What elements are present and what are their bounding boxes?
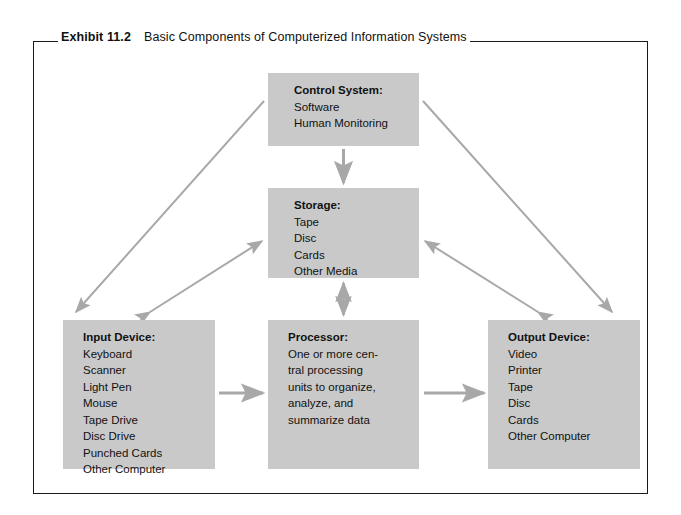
node-storage-item: Cards [294, 247, 411, 264]
node-storage-item: Disc [294, 230, 411, 247]
node-input-device-title: Input Device: [83, 329, 207, 346]
node-input-device-item: Disc Drive [83, 428, 207, 445]
node-output-device: Output Device: Video Printer Tape Disc C… [488, 320, 640, 469]
node-output-device-item: Other Computer [508, 428, 632, 445]
exhibit-number: Exhibit 11.2 [61, 30, 131, 44]
frame-left-border [33, 41, 34, 494]
exhibit-title: Exhibit 11.2 Basic Components of Compute… [61, 26, 467, 48]
arrow-storage-output [425, 241, 538, 312]
node-processor-item: One or more cen- [288, 346, 411, 363]
node-control-system-item: Software [294, 99, 411, 116]
node-processor: Processor: One or more cen- tral process… [268, 320, 419, 469]
node-storage: Storage: Tape Disc Cards Other Media [268, 188, 419, 278]
frame-top-left-border [33, 41, 58, 42]
exhibit-caption: Basic Components of Computerized Informa… [144, 30, 467, 44]
node-processor-item: summarize data [288, 412, 411, 429]
node-input-device-item: Punched Cards [83, 445, 207, 462]
node-input-device-item: Mouse [83, 395, 207, 412]
exhibit-diagram: Exhibit 11.2 Basic Components of Compute… [0, 0, 681, 515]
node-storage-item: Other Media [294, 263, 411, 280]
arrow-storage-input [150, 241, 262, 312]
frame-top-right-border [470, 41, 648, 42]
node-processor-title: Processor: [288, 329, 411, 346]
node-processor-item: units to organize, [288, 379, 411, 396]
node-input-device-item: Other Computer [83, 461, 207, 478]
node-output-device-item: Cards [508, 412, 632, 429]
node-input-device-item: Light Pen [83, 379, 207, 396]
arrow-control-to-input [76, 101, 264, 312]
node-control-system-title: Control System: [294, 82, 411, 99]
arrow-control-to-output [423, 101, 612, 312]
node-processor-item: tral processing [288, 362, 411, 379]
node-output-device-item: Printer [508, 362, 632, 379]
node-input-device-item: Tape Drive [83, 412, 207, 429]
node-input-device-item: Keyboard [83, 346, 207, 363]
node-output-device-title: Output Device: [508, 329, 632, 346]
node-storage-title: Storage: [294, 197, 411, 214]
node-input-device: Input Device: Keyboard Scanner Light Pen… [63, 320, 215, 469]
node-storage-item: Tape [294, 214, 411, 231]
node-input-device-item: Scanner [83, 362, 207, 379]
frame-bottom-border [33, 493, 648, 494]
node-control-system: Control System: Software Human Monitorin… [268, 73, 419, 146]
node-control-system-item: Human Monitoring [294, 115, 411, 132]
node-output-device-item: Disc [508, 395, 632, 412]
node-output-device-item: Tape [508, 379, 632, 396]
node-output-device-item: Video [508, 346, 632, 363]
node-processor-item: analyze, and [288, 395, 411, 412]
frame-right-border [647, 41, 648, 494]
